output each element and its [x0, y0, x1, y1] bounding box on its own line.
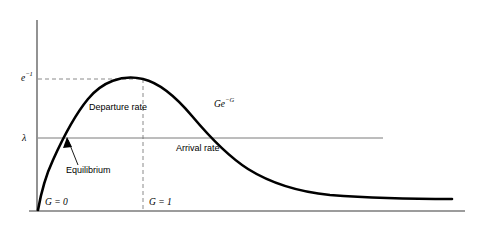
x-tick-label-g-zero: G = 0 — [45, 197, 68, 207]
y-tick-label-e-inverse: e−1 — [21, 70, 33, 83]
chart-canvas: e−1 λ G = 0 G = 1 Departure rate Arrival… — [0, 0, 481, 230]
y-tick-label-lambda: λ — [21, 132, 27, 143]
arrival-rate-label: Arrival rate — [176, 143, 220, 153]
departure-rate-curve — [38, 78, 452, 210]
departure-rate-label: Departure rate — [89, 102, 147, 112]
curve-formula-label: Ge−G — [214, 96, 234, 109]
aloha-throughput-figure: e−1 λ G = 0 G = 1 Departure rate Arrival… — [0, 0, 481, 230]
equilibrium-label: Equilibrium — [66, 165, 111, 175]
x-tick-label-g-one: G = 1 — [149, 197, 172, 207]
